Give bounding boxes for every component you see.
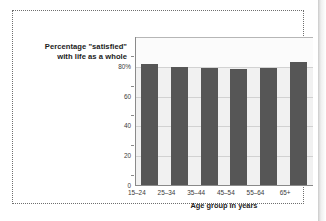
y-tick-label-60: 60 — [91, 94, 131, 100]
bar-15–24 — [141, 64, 158, 185]
bar-55–64 — [260, 68, 277, 185]
bar-65+ — [290, 62, 307, 185]
y-tick-label-80: 80% — [91, 64, 131, 70]
bar-25–34 — [171, 67, 188, 185]
y-tick-mark-60 — [131, 86, 134, 87]
page-edge — [318, 0, 326, 221]
y-axis-ticks: 80% 60 40 20 0 — [89, 37, 131, 186]
y-tick-label-20: 20 — [91, 153, 131, 159]
plot-area — [135, 37, 313, 186]
bar-35–44 — [201, 68, 218, 185]
bar-series — [135, 37, 313, 186]
x-axis-label: Age group in years — [135, 201, 313, 210]
x-axis-line — [135, 185, 313, 186]
x-tick-label-65+: 65+ — [265, 189, 305, 196]
y-tick-label-40: 40 — [91, 123, 131, 129]
y-tick-mark-40 — [131, 115, 134, 116]
bar-45–54 — [230, 69, 247, 185]
page-sheet: Percentage "satisfied"with life as a who… — [0, 0, 318, 221]
figure-frame: Percentage "satisfied"with life as a who… — [12, 10, 304, 204]
y-tick-mark-80 — [131, 56, 134, 57]
y-tick-mark-20 — [131, 145, 134, 146]
y-tick-mark-0 — [131, 175, 134, 176]
y-axis-line — [135, 37, 136, 186]
